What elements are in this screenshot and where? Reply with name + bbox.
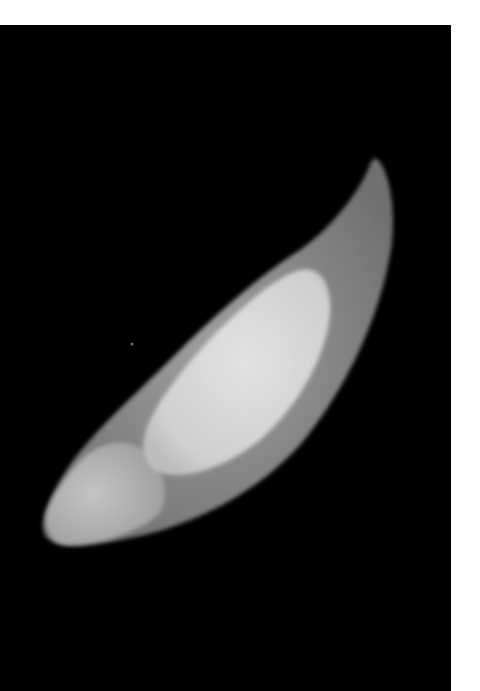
photo-frame bbox=[0, 25, 451, 691]
speck bbox=[131, 343, 134, 346]
seed-image bbox=[0, 25, 451, 691]
